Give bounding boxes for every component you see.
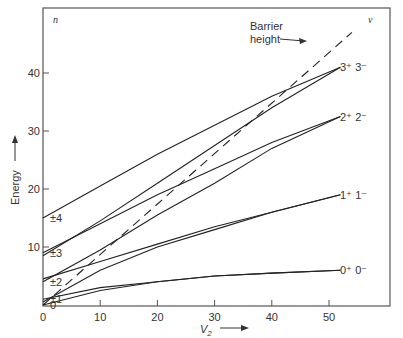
right-level-label: 3⁺ 3⁻ [340, 61, 367, 73]
level-curve [43, 117, 340, 282]
level-curve [43, 195, 340, 302]
arrow-up-icon [12, 135, 18, 143]
x-tick-label: 0 [40, 311, 46, 323]
x-tick-label: 50 [323, 311, 335, 323]
barrier-label-line1: Barrier [250, 20, 283, 32]
barrier-annotation: Barrier height [250, 20, 307, 45]
level-curve [43, 67, 340, 256]
left-level-label: ±3 [50, 247, 62, 259]
barrier-height-line [43, 32, 352, 305]
y-tick-label: 40 [28, 67, 40, 79]
x-axis-title: V2 [200, 323, 249, 338]
y-axis-label: Energy [9, 170, 21, 205]
corner-label-n: n [53, 14, 58, 25]
y-tick-label: 20 [28, 183, 40, 195]
right-level-label: 0⁺ 0⁻ [340, 264, 367, 276]
y-tick-label: 10 [28, 241, 40, 253]
x-tick-label: 40 [266, 311, 278, 323]
x-tick-label: 20 [151, 311, 163, 323]
y-axis-title: Energy [9, 135, 21, 205]
x-tick-label: 30 [208, 311, 220, 323]
right-level-label: 2⁺ 2⁻ [340, 111, 367, 123]
arrow-right-icon [241, 325, 249, 331]
right-level-label: 1⁺ 1⁻ [340, 189, 367, 201]
y-tick-label: 30 [28, 125, 40, 137]
x-tick-label: 10 [94, 311, 106, 323]
plot-frame [43, 8, 390, 306]
left-level-label: ±4 [50, 212, 62, 224]
energy-level-chart: 0102030405010203040 ±4±3±2±103⁺ 3⁻2⁺ 2⁻1… [0, 0, 403, 338]
x-axis-label: V2 [200, 323, 212, 338]
arrow-head-icon [299, 38, 307, 44]
barrier-label-line2: height [250, 33, 280, 45]
corner-label-nu: ν [368, 14, 373, 25]
left-level-label: ±2 [50, 276, 62, 288]
level-curve [43, 270, 340, 299]
level-curve [43, 270, 340, 305]
left-level-label: 0 [50, 299, 56, 311]
curves [43, 32, 352, 305]
